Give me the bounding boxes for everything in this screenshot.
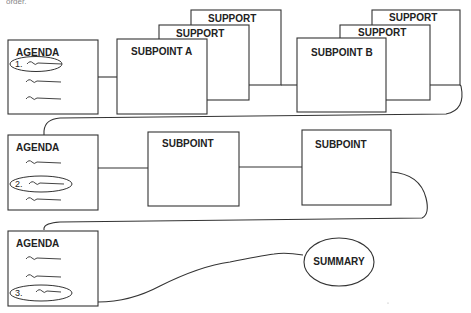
- subpoint-card-row2-2: SUBPOINT: [302, 130, 391, 205]
- support-label: SUPPORT: [389, 12, 437, 23]
- agenda-box-1: AGENDA 1.: [8, 40, 98, 114]
- summary-label: SUMMARY: [313, 256, 365, 267]
- subpoint-b-stack: SUPPORT SUPPORT SUBPOINT B: [297, 10, 460, 112]
- agenda-item-number: 3.: [15, 288, 23, 298]
- subpoint-a-stack: SUPPORT SUPPORT SUBPOINT A: [117, 10, 281, 114]
- scan-speck: [387, 302, 388, 303]
- agenda-box-2: AGENDA 2.: [8, 135, 98, 210]
- agenda-item-number: 1.: [15, 59, 23, 69]
- agenda-title: AGENDA: [16, 142, 59, 153]
- subpoint-label: SUBPOINT A: [131, 46, 192, 57]
- agenda-item-number: 2.: [15, 179, 23, 189]
- subpoint-label: SUBPOINT: [315, 139, 367, 150]
- subpoint-card-row2-1: SUBPOINT: [148, 132, 239, 206]
- support-label: SUPPORT: [176, 28, 224, 39]
- speech-structure-diagram: AGENDA 1. SUPPORT SUPPORT SUBPOINT A SUP…: [0, 0, 471, 313]
- support-label: SUPPORT: [208, 13, 256, 24]
- summary-ellipse: SUMMARY: [304, 238, 374, 286]
- agenda-box-3: AGENDA 3.: [8, 231, 98, 306]
- subpoint-label: SUBPOINT B: [311, 47, 373, 58]
- connector-agenda3-summary: [98, 253, 303, 302]
- support-label: SUPPORT: [358, 27, 406, 38]
- subpoint-label: SUBPOINT: [162, 138, 214, 149]
- agenda-title: AGENDA: [16, 238, 59, 249]
